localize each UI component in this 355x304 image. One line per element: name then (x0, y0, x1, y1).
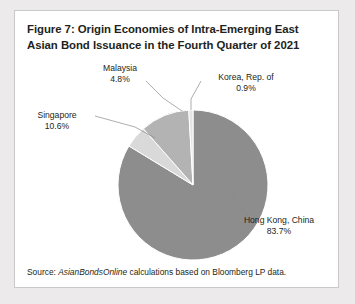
leader-line-malaysia (146, 81, 182, 111)
source-prefix: Source: (27, 267, 56, 277)
slice-label-hongkong-name: Hong Kong, China (244, 215, 314, 225)
source-rest: calculations based on Bloomberg LP data. (129, 267, 286, 277)
source-publication: AsianBondsOnline (58, 267, 127, 277)
slice-label-hongkong-value: 83.7% (235, 226, 323, 237)
slice-label-korea: Korea, Rep. of 0.9% (203, 72, 289, 93)
slice-label-hongkong: Hong Kong, China 83.7% (235, 215, 323, 236)
pie-chart: Malaysia 4.8% Korea, Rep. of 0.9% Singap… (15, 55, 338, 263)
slice-label-malaysia: Malaysia 4.8% (89, 63, 151, 84)
slice-label-malaysia-value: 4.8% (89, 74, 151, 85)
slice-label-korea-name: Korea, Rep. of (218, 72, 273, 82)
leader-line-korea (191, 81, 201, 110)
slice-label-malaysia-name: Malaysia (103, 63, 137, 73)
figure-card: Figure 7: Origin Economies of Intra-Emer… (14, 10, 339, 288)
figure-title: Figure 7: Origin Economies of Intra-Emer… (27, 22, 329, 53)
slice-label-korea-value: 0.9% (203, 83, 289, 94)
slice-label-singapore: Singapore 10.6% (21, 110, 93, 131)
slice-label-singapore-name: Singapore (37, 110, 76, 120)
pie-slices (118, 110, 268, 260)
figure-source: Source: AsianBondsOnline calculations ba… (27, 267, 327, 278)
slice-label-singapore-value: 10.6% (21, 121, 93, 132)
